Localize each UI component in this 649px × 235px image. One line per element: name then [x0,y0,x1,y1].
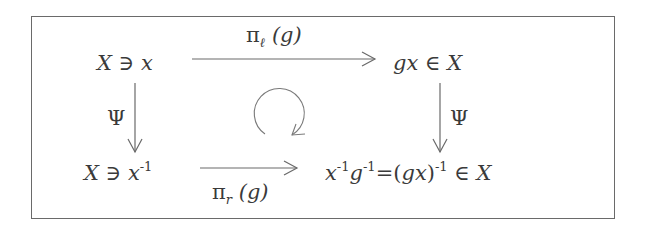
bottom-arrow [200,161,297,175]
exponent: -1 [363,159,376,174]
element-symbol: gx [393,51,418,75]
paren-close: ) [427,161,435,185]
node-top-left: X ∋ x [97,53,153,74]
element-symbol: x [128,161,140,185]
subscript: ℓ [260,35,265,50]
diagram-arrows [0,0,649,235]
argument: (g) [239,180,269,204]
subscript: r [226,192,232,207]
element-symbol: x [141,51,153,75]
node-top-right: gx ∈ X [393,53,462,74]
circular-arrow-icon [254,88,305,135]
set-symbol: X [477,161,492,185]
pi-symbol: π [246,23,260,47]
equals-symbol: = [376,161,394,185]
member-symbol: ∈ [454,161,470,185]
exponent: -1 [140,159,153,174]
element-gx: gx [401,161,426,185]
node-bottom-left: X ∋ x-1 [84,160,152,184]
set-symbol: X [84,161,99,185]
pi-symbol: π [212,180,226,204]
left-arrow [128,83,142,152]
exponent: -1 [435,159,448,174]
label-right-arrow: Ψ [450,108,468,129]
set-symbol: X [447,51,462,75]
contains-symbol: ∋ [106,161,122,185]
element-x: x [325,161,337,185]
argument: (g) [272,23,302,47]
label-bottom-arrow: πr (g) [212,182,269,206]
psi-symbol: Ψ [107,106,125,130]
member-symbol: ∈ [425,51,441,75]
psi-symbol: Ψ [450,106,468,130]
label-top-arrow: πℓ (g) [246,25,302,49]
contains-symbol: ∋ [119,51,135,75]
label-left-arrow: Ψ [107,108,125,129]
exponent: -1 [337,159,350,174]
top-arrow [192,52,375,66]
right-arrow [433,83,447,152]
node-bottom-right: x-1g-1=(gx)-1 ∈ X [325,160,492,184]
set-symbol: X [97,51,112,75]
element-g: g [350,161,363,185]
